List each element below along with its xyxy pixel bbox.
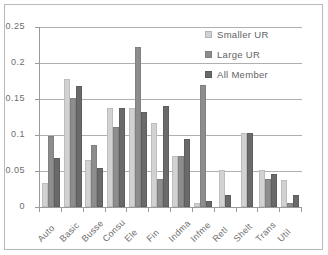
x-axis-label: Trans	[254, 220, 278, 244]
bar	[141, 112, 147, 207]
x-axis-label: Consu	[101, 217, 128, 244]
legend-label: Smaller UR	[217, 29, 269, 40]
x-axis-label: Auto	[36, 223, 57, 244]
legend-label: Large UR	[217, 49, 260, 60]
bar	[225, 195, 231, 207]
bar	[200, 85, 206, 207]
bar	[119, 108, 125, 207]
x-axis-label: Basic	[57, 220, 81, 244]
bar-group	[40, 27, 62, 207]
x-axis-labels: AutoBasicBusseConsuEleFinIndmaInfmeRetlS…	[39, 210, 301, 254]
y-axis-tick-label: 0.2	[0, 58, 25, 67]
x-axis-label: Ele	[123, 227, 140, 244]
bar	[247, 133, 253, 207]
bar	[163, 106, 169, 207]
bar-group	[171, 27, 193, 207]
bar-group	[105, 27, 127, 207]
y-axis-tick-label: 0	[0, 202, 25, 211]
bar	[293, 195, 299, 207]
bar-group	[127, 27, 149, 207]
y-axis-tick-label: 0.15	[0, 94, 25, 103]
x-axis-label: Fin	[145, 227, 162, 244]
x-axis-label: Util	[276, 227, 293, 244]
legend-item: Smaller UR	[205, 24, 310, 44]
chart-legend: Smaller URLarge URAll Member	[205, 24, 310, 84]
y-axis-tick-label: 0.25	[0, 22, 25, 31]
legend-item: All Member	[205, 64, 310, 84]
x-axis-label: Infme	[188, 220, 212, 244]
y-axis-tick-label: 0.05	[0, 166, 25, 175]
bar-group	[84, 27, 106, 207]
bar	[206, 201, 212, 207]
chart-page: 00.050.10.150.20.25 AutoBasicBusseConsuE…	[0, 0, 328, 255]
x-axis-label: Shelt	[232, 221, 255, 244]
bar	[184, 139, 190, 207]
legend-label: All Member	[217, 69, 268, 80]
bar	[271, 174, 277, 207]
x-axis-label: Busse	[79, 218, 105, 244]
bar	[76, 86, 82, 207]
y-axis-tick-label: 0.1	[0, 130, 25, 139]
bar-group	[62, 27, 84, 207]
bar-group	[149, 27, 171, 207]
x-axis-tick-mark	[301, 208, 302, 212]
x-axis-label: Retl	[210, 225, 229, 244]
bar	[97, 168, 103, 207]
x-axis-label: Indma	[167, 218, 193, 244]
legend-item: Large UR	[205, 44, 310, 64]
legend-swatch-icon	[205, 51, 212, 58]
legend-swatch-icon	[205, 71, 212, 78]
legend-swatch-icon	[205, 31, 212, 38]
bar	[54, 158, 60, 207]
